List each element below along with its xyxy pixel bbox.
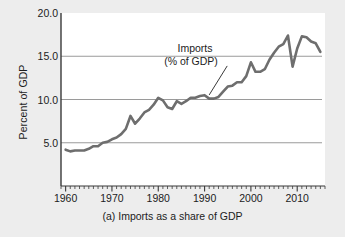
y-tick-label: 20.0 <box>24 8 58 18</box>
figure-imports-share-of-gdp: 5.010.015.020.0 Percent of GDP Imports (… <box>0 0 345 237</box>
x-tick-label: 2000 <box>228 192 274 204</box>
x-tick-label: 2010 <box>274 192 320 204</box>
y-axis-title: Percent of GDP <box>17 42 29 162</box>
y-tick-label: 10.0 <box>24 95 58 105</box>
y-tick-label: 15.0 <box>24 51 58 61</box>
x-tick-label: 1960 <box>43 192 89 204</box>
x-tick-label: 1970 <box>89 192 135 204</box>
x-tick-label: 1980 <box>135 192 181 204</box>
figure-caption: (a) Imports as a share of GDP <box>0 210 345 222</box>
annotation-label-percent-of-gdp: (% of GDP) <box>146 55 236 67</box>
x-tick-label: 1990 <box>182 192 228 204</box>
annotation-label-imports: Imports <box>150 42 240 54</box>
y-tick-label: 5.0 <box>24 138 58 148</box>
